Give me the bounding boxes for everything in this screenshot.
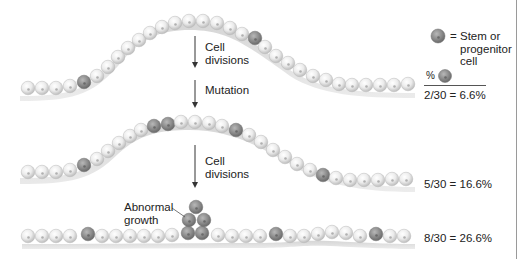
nucleus xyxy=(345,233,348,236)
normal-cell xyxy=(385,172,399,186)
nucleus xyxy=(296,164,299,167)
normal-cell xyxy=(339,226,353,240)
normal-cell xyxy=(196,14,210,28)
nucleus xyxy=(405,179,408,182)
arrow-cell-divisions-2 xyxy=(192,145,198,188)
normal-cell xyxy=(49,229,63,243)
nucleus xyxy=(363,180,366,183)
label-cell-divisions-1: Cell divisions xyxy=(205,41,249,66)
nucleus xyxy=(365,85,368,88)
nucleus xyxy=(101,236,104,239)
nucleus xyxy=(195,207,198,210)
nucleus xyxy=(107,151,110,154)
nucleus xyxy=(377,180,380,183)
normal-cell xyxy=(123,229,137,243)
nucleus xyxy=(203,220,206,223)
normal-cell xyxy=(278,150,292,164)
nucleus xyxy=(389,236,392,239)
nucleus xyxy=(96,76,99,79)
normal-cell xyxy=(21,165,35,179)
nucleus xyxy=(55,172,58,175)
stem-cell xyxy=(147,119,161,133)
nucleus xyxy=(188,21,191,24)
nucleus xyxy=(69,86,72,89)
nucleus xyxy=(117,57,120,60)
normal-cell xyxy=(21,81,35,95)
normal-cell xyxy=(63,229,77,243)
stem-cell xyxy=(182,213,196,227)
normal-cell xyxy=(101,60,115,74)
normal-cell xyxy=(109,229,123,243)
label-mutation: Mutation xyxy=(205,84,249,97)
nucleus xyxy=(167,124,170,127)
normal-cell xyxy=(373,78,387,92)
nucleus xyxy=(143,236,146,239)
nucleus xyxy=(149,33,152,36)
stem-cell xyxy=(81,227,95,241)
label-line: Abnormal xyxy=(124,201,173,214)
stem-cell xyxy=(181,226,195,240)
arrow-cell-divisions-1 xyxy=(192,36,198,68)
nucleus xyxy=(260,142,263,145)
label-line: Cell xyxy=(205,155,249,168)
normal-cell xyxy=(223,21,237,35)
normal-cell xyxy=(397,229,411,243)
nucleus xyxy=(55,88,58,91)
legend-percent-sign: % xyxy=(426,70,435,83)
nucleus xyxy=(299,70,302,73)
normal-cell xyxy=(387,78,401,92)
nucleus xyxy=(201,233,204,236)
normal-cell xyxy=(357,173,371,187)
label-line: growth xyxy=(124,214,173,227)
nucleus xyxy=(115,236,118,239)
normal-cell xyxy=(95,229,109,243)
normal-cell xyxy=(49,81,63,95)
nucleus xyxy=(216,23,219,26)
normal-cell xyxy=(63,163,77,177)
nucleus xyxy=(127,48,130,51)
nucleus xyxy=(264,47,267,50)
normal-cell xyxy=(401,77,415,91)
nucleus xyxy=(107,67,110,70)
nucleus xyxy=(231,236,234,239)
normal-cell xyxy=(242,128,256,142)
nucleus xyxy=(287,63,290,66)
nucleus xyxy=(335,178,338,181)
stem-cell xyxy=(431,29,445,43)
stem-cell xyxy=(369,227,383,241)
nucleus xyxy=(289,236,292,239)
normal-cell xyxy=(311,227,325,241)
normal-cell xyxy=(21,229,35,243)
nucleus xyxy=(138,40,141,43)
nucleus xyxy=(129,236,132,239)
nucleus xyxy=(403,236,406,239)
nucleus xyxy=(129,136,132,139)
normal-cell xyxy=(290,157,304,171)
normal-cell xyxy=(258,40,272,54)
stem-cell xyxy=(161,117,175,131)
nucleus xyxy=(202,21,205,24)
nucleus xyxy=(317,234,320,237)
normal-cell xyxy=(235,27,249,41)
label-line: divisions xyxy=(205,54,249,67)
normal-cell xyxy=(215,119,229,133)
normal-cell xyxy=(254,135,268,149)
label-line: Cell xyxy=(205,41,249,54)
nucleus xyxy=(444,76,447,79)
normal-cell xyxy=(297,229,311,243)
stem-cell xyxy=(439,70,452,83)
label-cell-divisions-2: Cell divisions xyxy=(205,155,249,180)
nucleus xyxy=(69,236,72,239)
legend-line: progenitor xyxy=(460,43,512,56)
normal-cell xyxy=(253,229,267,243)
nucleus xyxy=(303,236,306,239)
nucleus xyxy=(96,159,99,162)
legend-stem-cell-icon xyxy=(431,29,445,43)
normal-cell xyxy=(383,229,397,243)
stem-cell xyxy=(195,226,209,240)
row3-cells xyxy=(21,225,411,243)
normal-cell xyxy=(63,79,77,93)
ratio-row2: 5/30 = 16.6% xyxy=(424,178,492,190)
nucleus xyxy=(437,36,440,39)
nucleus xyxy=(187,233,190,236)
